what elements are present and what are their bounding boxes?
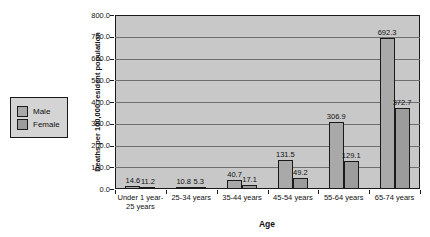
bar-value-label: 129.1	[334, 151, 368, 160]
legend-entry-female: Female	[17, 119, 61, 130]
bar-female-5	[395, 108, 410, 189]
bar-male-1	[176, 187, 191, 189]
gridline	[115, 80, 420, 81]
bar-value-label: 692.3	[370, 28, 404, 37]
bar-chart-figure: Deaths per 100,000 resident population A…	[0, 0, 430, 237]
x-axis-category-label: 35-44 years	[217, 194, 268, 203]
legend-label: Female	[33, 119, 60, 130]
bar-female-2	[242, 185, 257, 189]
legend: MaleFemale	[10, 97, 68, 138]
x-axis-category-label: 25-34 years	[166, 194, 217, 203]
bar-female-3	[293, 178, 308, 189]
legend-swatch-icon	[17, 119, 28, 130]
legend-entry-male: Male	[17, 106, 61, 117]
gridline	[115, 167, 420, 168]
y-axis-tick-label: 500.0	[78, 76, 110, 85]
bar-value-label: 306.9	[319, 112, 353, 121]
bar-female-4	[344, 161, 359, 189]
x-axis-category-label: 55-64 years	[318, 194, 369, 203]
y-axis-tick-label: 600.0	[78, 54, 110, 63]
y-axis-tick	[110, 146, 114, 147]
y-axis-tick	[110, 124, 114, 125]
legend-swatch-icon	[17, 106, 28, 117]
bar-male-0	[125, 186, 140, 189]
gridline	[115, 146, 420, 147]
x-axis-title: Age	[259, 219, 275, 229]
y-axis-tick	[110, 37, 114, 38]
bar-value-label: 372.7	[385, 98, 419, 107]
y-axis-tick	[110, 80, 114, 81]
y-axis-tick-label: 100.0	[78, 163, 110, 172]
y-axis-tick-label: 400.0	[78, 98, 110, 107]
bar-value-label: 5.3	[182, 177, 216, 186]
y-axis-tick-label: 200.0	[78, 141, 110, 150]
legend-label: Male	[33, 106, 50, 117]
x-axis-category-label: 45-54 years	[268, 194, 319, 203]
bar-value-label: 131.5	[268, 150, 302, 159]
y-axis-tick-label: 800.0	[78, 11, 110, 20]
y-axis-tick-label: 700.0	[78, 32, 110, 41]
bar-female-1	[191, 187, 206, 189]
x-axis-tick	[420, 190, 421, 194]
x-axis-category-label: Under 1 year- 25 years	[115, 194, 166, 211]
bar-value-label: 17.1	[233, 175, 267, 184]
gridline	[115, 124, 420, 125]
y-axis-tick	[110, 167, 114, 168]
y-axis-tick-label: 300.0	[78, 119, 110, 128]
y-axis-tick	[110, 59, 114, 60]
bar-value-label: 49.2	[283, 168, 317, 177]
bar-value-label: 11.2	[131, 177, 165, 186]
y-axis-tick	[110, 189, 114, 190]
y-axis-tick-label: 0.0	[78, 185, 110, 194]
bar-male-5	[380, 38, 395, 189]
x-axis-category-label: 65-74 years	[369, 194, 420, 203]
y-axis-tick	[110, 15, 114, 16]
y-axis-tick	[110, 102, 114, 103]
bar-female-0	[140, 187, 155, 189]
gridline	[115, 102, 420, 103]
gridline	[115, 59, 420, 60]
